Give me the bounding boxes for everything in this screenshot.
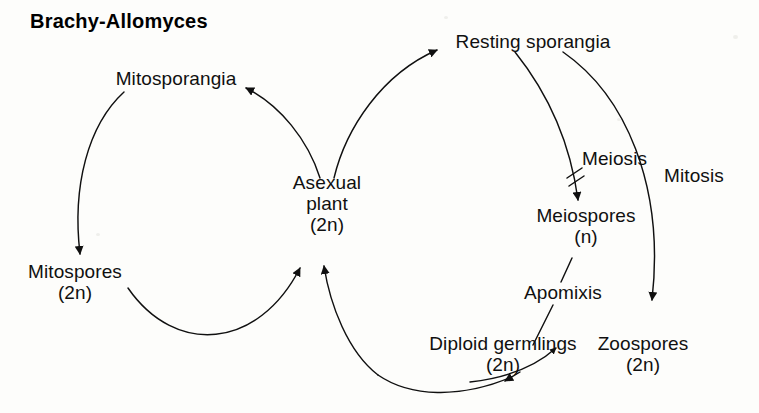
node-meiospores-ploidy: (n) xyxy=(536,226,635,247)
node-zoospores: Zoospores (2n) xyxy=(598,333,689,375)
node-meiospores: Meiospores (n) xyxy=(536,205,635,247)
node-mitospores-ploidy: (2n) xyxy=(28,282,122,303)
node-resting-sporangia-label: Resting sporangia xyxy=(456,31,611,52)
edge-germlings-to-asexual xyxy=(378,375,512,393)
node-mitospores-label: Mitospores xyxy=(28,261,122,282)
scan-speck xyxy=(733,35,738,39)
node-meiospores-label: Meiospores xyxy=(536,205,635,226)
edge-mitospores-to-asexual xyxy=(128,268,300,335)
node-diploid-germlings-ploidy: (2n) xyxy=(429,354,576,375)
process-label-meiosis: Meiosis xyxy=(582,148,647,169)
node-asexual-plant-ploidy: (2n) xyxy=(293,214,361,235)
node-diploid-germlings: Diploid germlings (2n) xyxy=(429,333,576,375)
node-mitosporangia-label: Mitosporangia xyxy=(116,68,237,89)
node-asexual-plant-label: Asexual xyxy=(293,172,361,193)
process-label-mitosis: Mitosis xyxy=(664,165,724,186)
node-zoospores-ploidy: (2n) xyxy=(598,354,689,375)
node-asexual-plant-label2: plant xyxy=(293,193,361,214)
edge-asexual-to-mitosporangia xyxy=(246,88,320,178)
edge-mitosporangia-to-mitospores xyxy=(78,92,124,254)
edge-asexual-to-resting-sporangia xyxy=(334,50,437,178)
diagram-page: Brachy-Allomyces xyxy=(0,0,759,413)
node-mitospores: Mitospores (2n) xyxy=(28,261,122,303)
node-mitosporangia: Mitosporangia xyxy=(116,68,237,89)
node-resting-sporangia: Resting sporangia xyxy=(456,31,611,52)
node-asexual-plant: Asexual plant (2n) xyxy=(293,172,361,235)
edge-germlings-to-asexual-rise xyxy=(324,266,378,375)
node-diploid-germlings-label: Diploid germlings xyxy=(429,333,576,354)
node-zoospores-label: Zoospores xyxy=(598,333,689,354)
process-label-apomixis: Apomixis xyxy=(524,282,602,303)
scan-speck xyxy=(617,118,621,121)
scan-speck xyxy=(444,16,448,19)
edge-apomixis-upper xyxy=(561,258,572,282)
edge-mitosis xyxy=(563,52,654,300)
scan-speck xyxy=(96,233,100,236)
